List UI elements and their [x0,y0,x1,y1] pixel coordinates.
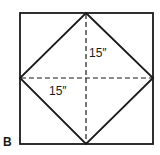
quilt-block-diagram: 15″ 15″ B [0,0,160,155]
vertical-dimension-label: 15″ [89,46,107,60]
panel-label: B [3,135,12,149]
horizontal-dimension-label: 15″ [49,84,67,98]
